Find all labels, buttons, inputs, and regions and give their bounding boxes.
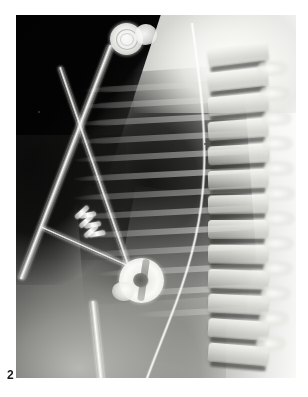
vertebral-body bbox=[208, 244, 268, 264]
posterior-element bbox=[265, 211, 295, 226]
posterior-element bbox=[258, 61, 288, 76]
vertebral-body bbox=[208, 269, 269, 290]
film-speck bbox=[192, 225, 194, 227]
ecg-electrode-secondary-icon bbox=[135, 24, 157, 45]
film-speck bbox=[38, 111, 40, 113]
thoracic-spine bbox=[202, 39, 296, 378]
posterior-element bbox=[265, 186, 295, 201]
intervertebral-disc-space bbox=[210, 214, 266, 220]
posterior-element bbox=[262, 111, 292, 126]
film-speck bbox=[204, 143, 206, 145]
posterior-element bbox=[260, 86, 290, 101]
posterior-element bbox=[264, 161, 294, 176]
intervertebral-disc-space bbox=[210, 239, 266, 244]
vertebral-body bbox=[208, 194, 268, 214]
posterior-element bbox=[256, 336, 286, 351]
figure-label: 2 bbox=[7, 369, 14, 381]
radiograph-image bbox=[16, 15, 296, 378]
vertebral-body bbox=[208, 220, 268, 239]
posterior-element bbox=[263, 261, 293, 276]
occluder-hub bbox=[133, 273, 148, 287]
figure-container: 2 bbox=[0, 0, 308, 397]
posterior-element bbox=[261, 286, 291, 301]
electrode-center-ring bbox=[120, 33, 134, 46]
occluder-device-icon bbox=[112, 256, 168, 310]
vertebral-body bbox=[208, 169, 269, 190]
posterior-element bbox=[259, 311, 289, 326]
occluder-stem bbox=[112, 282, 134, 301]
posterior-element bbox=[263, 136, 293, 151]
posterior-element bbox=[264, 236, 294, 251]
